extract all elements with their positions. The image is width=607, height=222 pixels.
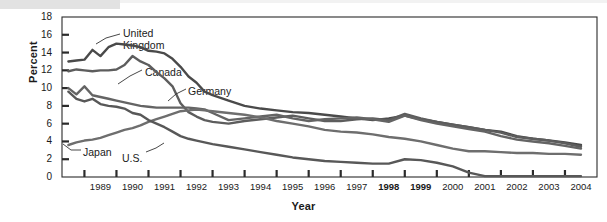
plot-area [0, 0, 607, 222]
unemployment-rate-line-chart: Percent Year 181614121086420 19891990199… [0, 0, 607, 222]
y-axis-ticks [62, 35, 69, 159]
leader-canada [118, 70, 142, 84]
line-canada [68, 56, 581, 147]
annotation-leader-lines [63, 34, 186, 152]
data-lines [68, 44, 581, 176]
leader-u-s [146, 143, 164, 152]
